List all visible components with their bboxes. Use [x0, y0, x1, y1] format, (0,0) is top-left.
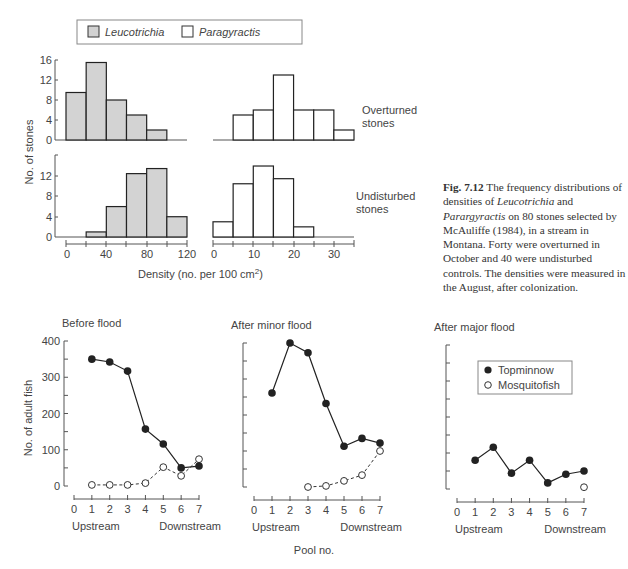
figure-caption: Fig. 7.12 The frequency distributions of… — [443, 180, 628, 294]
xtick-label: 4 — [142, 503, 148, 515]
topminnow-point — [376, 439, 384, 447]
line-panel-before-flood: Before flood400300200100001234567Upstrea… — [42, 317, 221, 532]
topminnow-point — [124, 367, 132, 375]
histogram-bar — [127, 115, 147, 140]
mosquitofish-point — [581, 484, 588, 491]
xtick-label: 6 — [359, 504, 365, 516]
yticks-bottom-left: 12 8 4 0 — [40, 170, 52, 243]
row-label-undisturbed-2: stones — [356, 203, 389, 215]
mosquitofish-point — [196, 456, 203, 463]
line-panel-after-minor-flood: After minor flood01234567UpstreamDownstr… — [231, 319, 402, 533]
mosquitofish-point — [323, 483, 330, 490]
xtick-label: 2 — [107, 503, 113, 515]
bars-undisturbed-paragyractis — [213, 166, 314, 237]
mosquitofish-point — [160, 464, 167, 471]
xtick-label: 2 — [490, 506, 496, 518]
histogram-bar — [273, 179, 293, 237]
topminnow-point — [471, 456, 479, 464]
legend-label-mosquitofish: Mosquitofish — [498, 379, 560, 391]
xtick-label: 2 — [287, 504, 293, 516]
svg-text:16: 16 — [40, 54, 52, 66]
histogram-bar — [233, 115, 253, 140]
svg-text:8: 8 — [46, 94, 52, 106]
histogram-bar — [86, 232, 106, 237]
histogram-bar — [294, 110, 314, 140]
svg-text:4: 4 — [46, 211, 52, 223]
mosquitofish-point — [124, 482, 131, 489]
legend-marker-topminnow — [484, 366, 491, 373]
topminnow-point — [508, 469, 516, 477]
y-axis-label-stones: No. of stones — [23, 119, 35, 184]
histogram-bar — [167, 217, 187, 237]
downstream-label: Downstream — [544, 523, 606, 535]
svg-text:4: 4 — [46, 114, 52, 126]
line-panel-after-major-flood: After major flood01234567UpstreamDownstr… — [434, 321, 606, 535]
xtick-label: 6 — [563, 506, 569, 518]
downstream-label: Downstream — [340, 521, 402, 533]
svg-text:0: 0 — [64, 248, 70, 260]
topminnow-point — [580, 467, 588, 475]
fish-legend: Topminnow Mosquitofish — [478, 361, 572, 394]
histogram-bar — [233, 184, 253, 237]
topminnow-point — [177, 464, 185, 472]
histogram-bar — [314, 110, 334, 140]
topminnow-point — [286, 339, 294, 347]
legend-label-paragyractis: Paragyractis — [199, 26, 261, 38]
xtick-label: 4 — [527, 506, 533, 518]
svg-text:0: 0 — [46, 134, 52, 146]
yticks-top-left: 16 12 8 4 0 — [40, 54, 52, 146]
xtick-label: 5 — [341, 504, 347, 516]
legend-marker-mosquitofish — [485, 382, 492, 389]
ytick-label: 200 — [42, 408, 60, 420]
histogram-bar — [273, 75, 293, 140]
ytick-label: 0 — [54, 480, 60, 492]
xtick-label: 3 — [508, 506, 514, 518]
histogram-legend: Leucotrichia Paragyractis — [77, 20, 302, 44]
histogram-bar — [127, 174, 147, 237]
xtick-label: 7 — [377, 504, 383, 516]
xticks-right-density: 0 10 20 30 — [211, 248, 340, 260]
svg-text:30: 30 — [328, 248, 340, 260]
bars-overturned-leucotrichia — [66, 63, 167, 141]
row-label-overturned: Overturned — [362, 104, 417, 116]
histogram-bar — [86, 63, 106, 141]
histogram-bar — [147, 130, 167, 140]
topminnow-point — [526, 456, 534, 464]
svg-text:120: 120 — [178, 248, 196, 260]
svg-text:12: 12 — [40, 74, 52, 86]
xtick-label: 1 — [89, 503, 95, 515]
topminnow-point — [159, 440, 167, 448]
xtick-label: 3 — [305, 504, 311, 516]
histogram-bar — [294, 227, 314, 237]
xtick-label: 6 — [178, 503, 184, 515]
topminnow-point — [340, 443, 348, 451]
histogram-bar — [106, 207, 126, 237]
histogram-bar — [147, 169, 167, 237]
histogram-bar — [253, 166, 273, 237]
xtick-label: 7 — [581, 506, 587, 518]
bars-undisturbed-leucotrichia — [86, 169, 187, 237]
svg-text:40: 40 — [100, 248, 112, 260]
mosquitofish-point — [341, 477, 348, 484]
x-axis-label-density: Density (no. per 100 cm2) — [138, 267, 263, 280]
svg-text:20: 20 — [288, 248, 300, 260]
topminnow-point — [142, 425, 150, 433]
svg-text:0: 0 — [211, 248, 217, 260]
histogram-bar — [253, 110, 273, 140]
topminnow-point — [304, 349, 312, 357]
legend-swatch-leucotrichia — [88, 26, 99, 37]
xtick-label: 4 — [323, 504, 329, 516]
xtick-label: 7 — [196, 503, 202, 515]
topminnow-point — [195, 462, 203, 470]
panel-title: After major flood — [434, 321, 515, 333]
upstream-label: Upstream — [455, 523, 503, 535]
legend-label-leucotrichia: Leucotrichia — [105, 26, 164, 38]
topminnow-point — [268, 389, 276, 397]
topminnow-point — [489, 443, 497, 451]
panel-title: After minor flood — [231, 319, 312, 331]
topminnow-line — [272, 343, 380, 446]
downstream-label: Downstream — [159, 520, 221, 532]
xticks-left-density: 0 40 80 120 — [64, 248, 196, 260]
svg-text:8: 8 — [46, 190, 52, 202]
x-axis-left-density — [66, 240, 187, 247]
